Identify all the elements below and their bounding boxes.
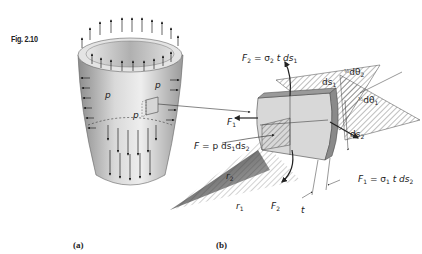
p-symbol: p bbox=[155, 80, 161, 90]
panel-a-label: (a) bbox=[73, 241, 84, 250]
label-ds1: ds1 bbox=[322, 78, 336, 88]
label-thickness: t bbox=[301, 206, 305, 215]
pressure-label-bottom: p bbox=[133, 111, 139, 120]
p-symbol: p bbox=[133, 110, 139, 120]
label-r1: r1 bbox=[236, 202, 244, 212]
figure-number: Fig. 2.10 bbox=[11, 35, 38, 44]
pressure-label-left: p bbox=[105, 91, 111, 100]
panel-b-label: (b) bbox=[216, 241, 227, 250]
label-ds2: ds2 bbox=[350, 130, 364, 140]
label-half-dtheta1: ½dθ1 bbox=[358, 96, 378, 106]
label-F2-top: F2 = σ2 t ds1 bbox=[242, 54, 297, 64]
pressure-label-right: p bbox=[155, 81, 161, 90]
figure-canvas bbox=[0, 0, 422, 254]
stress-element bbox=[257, 88, 339, 160]
label-F1-left: F1 bbox=[227, 118, 236, 128]
label-F2-bottom: F2 bbox=[271, 202, 280, 212]
label-half-dtheta2: ½dθ2 bbox=[344, 68, 364, 78]
label-pressure-force: F = p ds1ds2 bbox=[194, 142, 250, 152]
shell-of-revolution bbox=[78, 38, 183, 185]
p-symbol: p bbox=[105, 90, 111, 100]
label-r2: r2 bbox=[226, 172, 234, 182]
label-F1-right: F1 = σ1 t ds2 bbox=[358, 175, 413, 185]
